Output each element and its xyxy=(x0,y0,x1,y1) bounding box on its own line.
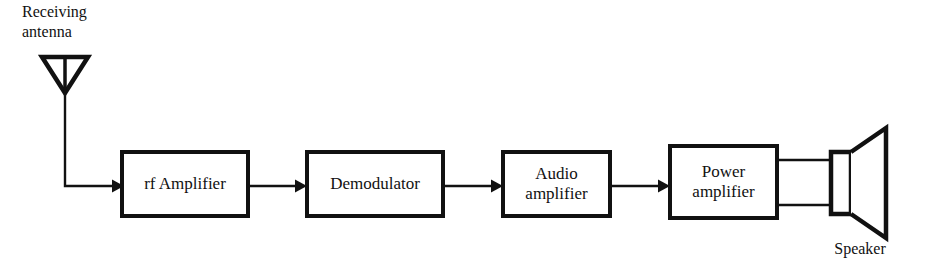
antenna-feed-wire xyxy=(65,91,124,193)
connector-audio-to-power xyxy=(610,180,670,193)
loudspeaker-icon xyxy=(831,128,886,238)
block-diagram: Receiving antenna rf Amplifier Demodulat… xyxy=(0,0,925,276)
diagram-canvas xyxy=(0,0,925,276)
speaker-leads xyxy=(777,160,833,205)
block-label-demodulator: Demodulator xyxy=(307,152,443,216)
antenna-triangle-icon xyxy=(42,57,88,93)
block-label-rf-amplifier: rf Amplifier xyxy=(122,152,248,216)
block-label-power-amplifier: Power amplifier xyxy=(670,146,777,218)
connector-rf-to-demodulator xyxy=(248,180,307,193)
block-label-audio-amplifier: Audio amplifier xyxy=(503,152,610,216)
speaker-label: Speaker xyxy=(800,240,920,259)
connector-demodulator-to-audio xyxy=(443,180,503,193)
antenna-label: Receiving antenna xyxy=(22,2,152,41)
